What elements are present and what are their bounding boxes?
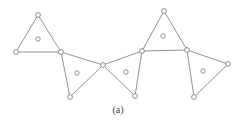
triangle-1 bbox=[16, 15, 61, 52]
triangle-center-node bbox=[124, 70, 128, 74]
vertex-node-H bbox=[162, 9, 167, 14]
vertex-node-I bbox=[185, 48, 190, 53]
figure-caption: (a) bbox=[106, 104, 130, 115]
vertex-node-G bbox=[133, 94, 138, 99]
vertex-node-B bbox=[14, 50, 19, 55]
triangle-4 bbox=[142, 11, 187, 51]
triangle-5 bbox=[187, 50, 228, 97]
triangle-center-node bbox=[36, 37, 40, 41]
vertex-node-F bbox=[140, 49, 145, 54]
diagram: (a) bbox=[0, 0, 242, 123]
vertex-node-D bbox=[68, 95, 73, 100]
vertex-node-C bbox=[59, 50, 64, 55]
vertex-node-K bbox=[192, 95, 197, 100]
triangle-center-node bbox=[161, 34, 165, 38]
vertex-node-E bbox=[101, 63, 106, 68]
triangle-center-node bbox=[75, 71, 79, 75]
vertex-node-J bbox=[226, 62, 231, 67]
vertex-node-A bbox=[36, 13, 41, 18]
triangle-2 bbox=[61, 52, 103, 97]
triangle-3 bbox=[103, 51, 142, 96]
triangle-center-node bbox=[201, 69, 205, 73]
